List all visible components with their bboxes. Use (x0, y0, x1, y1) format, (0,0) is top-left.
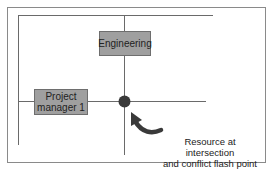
intersection-dot-icon (119, 96, 131, 108)
intersection-caption: Resource at intersection and conflict fl… (160, 136, 260, 169)
caption-line2: and conflict flash point (160, 158, 260, 169)
caption-line1: Resource at intersection (160, 136, 260, 158)
matrix-diagram: Engineering Project manager 1 Resource a… (0, 0, 274, 170)
engineering-box: Engineering (99, 31, 151, 56)
engineering-label: Engineering (98, 38, 151, 49)
project-manager-box: Project manager 1 (34, 89, 88, 115)
curved-arrow-icon (131, 112, 161, 132)
project-manager-label-line1: Project (45, 91, 76, 102)
project-manager-label-line2: manager 1 (37, 102, 85, 113)
